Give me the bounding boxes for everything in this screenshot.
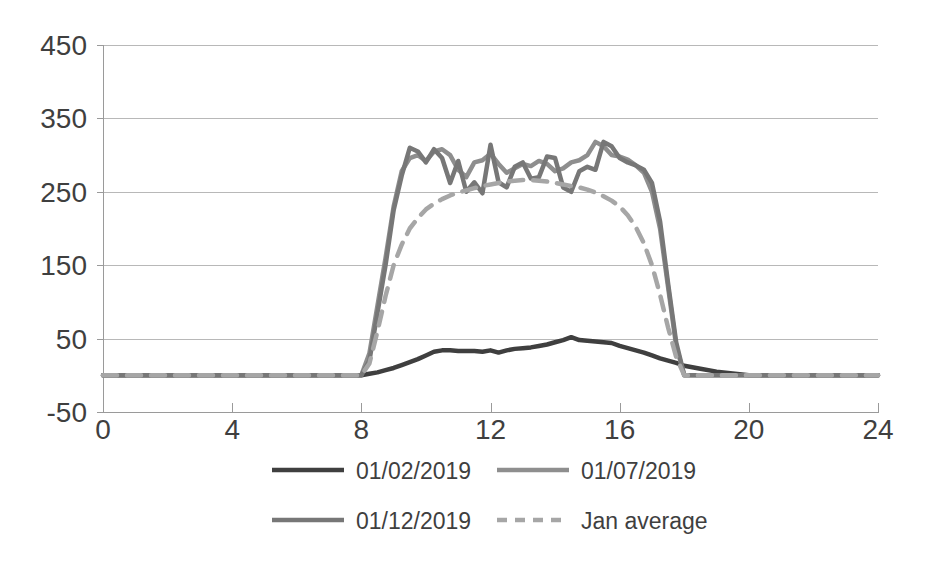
legend-item[interactable]: 01/02/2019 [272,458,471,484]
y-tick-label: 350 [40,103,87,134]
y-tick-label: 50 [56,324,87,355]
x-tick-label: 16 [604,414,635,445]
x-tick-label: 20 [733,414,764,445]
legend-label: 01/12/2019 [356,508,471,534]
chart-series-group [103,142,878,375]
y-tick-label: 450 [40,30,87,61]
x-tick-label: 12 [475,414,506,445]
legend-label: 01/02/2019 [356,458,471,484]
chart-container: -5050150250350450 04812162024 01/02/2019… [0,0,936,568]
legend-item[interactable]: 01/12/2019 [272,508,471,534]
y-tick-label: 250 [40,177,87,208]
x-tick-label: 8 [354,414,370,445]
legend-label: Jan average [581,508,708,534]
y-tick-label: -50 [47,397,87,428]
legend-label: 01/07/2019 [581,458,696,484]
y-tick-label: 150 [40,250,87,281]
chart-legend: 01/02/201901/07/201901/12/2019Jan averag… [272,458,708,534]
legend-item[interactable]: 01/07/2019 [497,458,696,484]
legend-item[interactable]: Jan average [497,508,708,534]
series-line-3 [103,142,878,375]
x-axis-tick-labels: 04812162024 [95,414,893,445]
x-tick-label: 24 [862,414,893,445]
chart-gridlines [103,46,878,413]
x-tick-label: 4 [224,414,240,445]
x-tick-label: 0 [95,414,111,445]
chart-axes [97,45,879,413]
line-chart: -5050150250350450 04812162024 01/02/2019… [0,0,936,568]
series-line-2 [103,142,878,375]
series-line-1 [103,337,878,375]
y-axis-tick-labels: -5050150250350450 [40,30,87,428]
series-line-4 [103,180,878,375]
